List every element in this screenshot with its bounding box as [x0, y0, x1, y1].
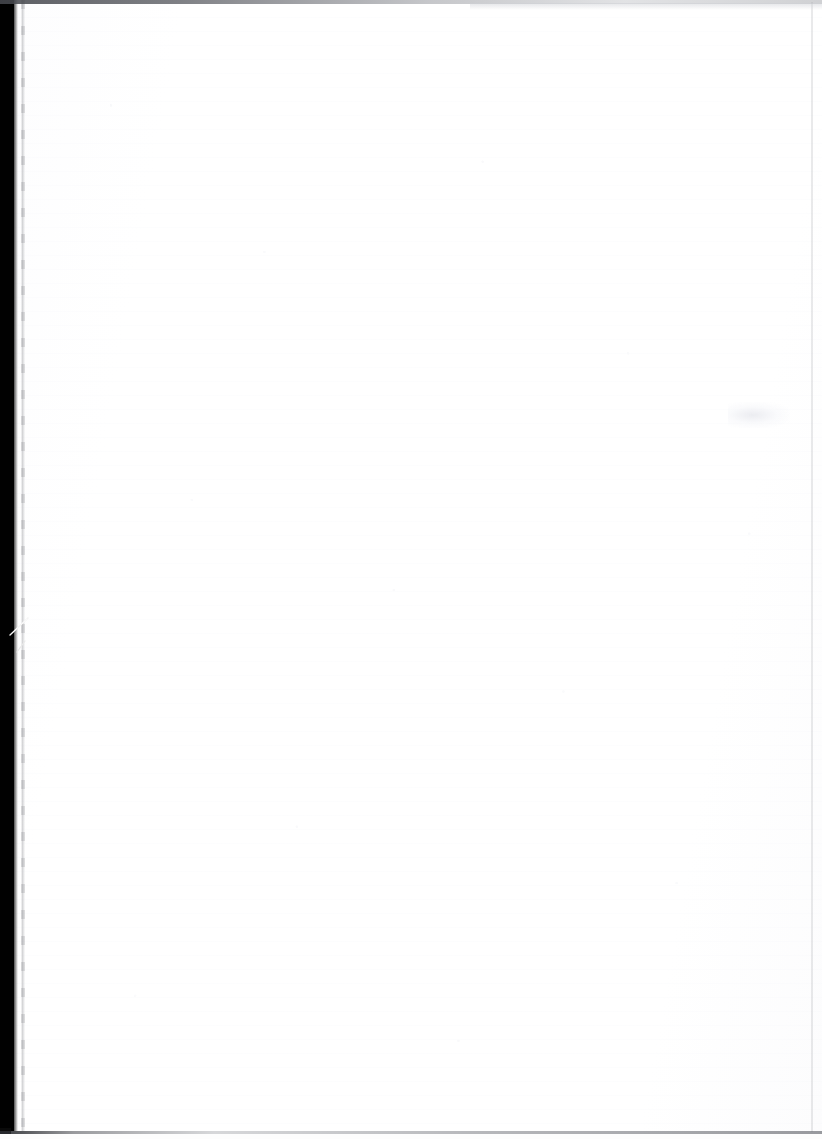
left-page-edge-shadow: [21, 0, 25, 1131]
paper-surface: [0, 0, 822, 1139]
bottom-white-strip: [0, 1134, 822, 1139]
right-page-edge-line: [811, 2, 813, 1132]
faint-smudge-artifact: [728, 402, 790, 428]
scanner-bed-feather: [13, 0, 18, 1131]
scanned-page: [0, 0, 822, 1139]
scanner-bed-left-margin: [0, 0, 14, 1131]
top-edge-haze: [470, 3, 822, 10]
